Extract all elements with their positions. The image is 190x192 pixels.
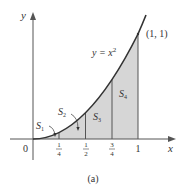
origin-label: 0 xyxy=(23,143,28,154)
svg-text:2: 2 xyxy=(84,150,88,158)
region-label-s1: S1 xyxy=(36,120,44,132)
y-axis-arrow-icon xyxy=(30,12,36,20)
curve-equation-label: y = x2 xyxy=(91,46,117,58)
region-label-s2: S2 xyxy=(58,106,66,118)
figure-caption: (a) xyxy=(87,173,98,185)
parabola-area-figure: y x 0 1 4 1 2 3 4 1 y = x2 (1, 1) S1 S2 … xyxy=(0,0,190,192)
svg-text:3: 3 xyxy=(110,141,114,149)
y-axis-label: y xyxy=(20,9,26,21)
point-1-1-marker xyxy=(137,33,139,35)
svg-text:1: 1 xyxy=(84,141,88,149)
tick-label-quarter: 1 4 xyxy=(56,141,62,158)
svg-text:1: 1 xyxy=(57,141,61,149)
tick-label-half: 1 2 xyxy=(83,141,89,158)
svg-text:4: 4 xyxy=(110,150,114,158)
tick-label-three-quarter: 3 4 xyxy=(109,141,115,158)
x-axis-label: x xyxy=(167,142,173,154)
tick-label-one: 1 xyxy=(136,143,141,154)
svg-text:4: 4 xyxy=(57,150,61,158)
point-label: (1, 1) xyxy=(146,28,168,40)
